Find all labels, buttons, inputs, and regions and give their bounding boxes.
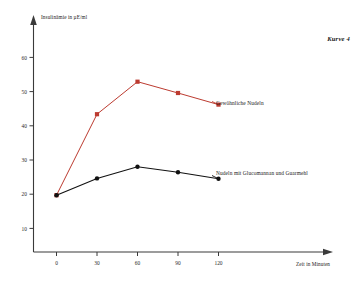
y-tick-label: 30 [11, 157, 27, 163]
chart-figure: Insulinämie in µE/ml Zeit in Minuten Kur… [0, 0, 364, 284]
series-label-nudeln-glucomannan-guarmehl: Nudeln mit Glucomannan und Guarmehl [216, 170, 308, 176]
y-tick-label: 40 [11, 123, 27, 129]
y-axis [30, 15, 37, 252]
y-tick-label: 60 [11, 55, 27, 61]
x-axis [34, 249, 334, 255]
x-tick-label: 0 [47, 260, 67, 266]
y-tick-label: 50 [11, 89, 27, 95]
x-tick-label: 30 [87, 260, 107, 266]
y-tick-label: 20 [11, 191, 27, 197]
chart-title: Kurve 4 [327, 36, 350, 43]
x-tick-label: 60 [128, 260, 148, 266]
series-nudeln-glucomannan-guarmehl [54, 165, 220, 198]
x-tick-label: 120 [209, 260, 229, 266]
y-axis-title: Insulinämie in µE/ml [41, 15, 87, 20]
chart-plot-area [0, 0, 364, 284]
y-tick-marks [30, 57, 34, 228]
x-tick-marks [57, 252, 219, 256]
y-tick-label: 10 [11, 226, 27, 232]
x-axis-title: Zeit in Minuten [296, 262, 330, 267]
x-tick-label: 90 [168, 260, 188, 266]
series-gewohnliche-nudeln [54, 80, 220, 198]
series-label-gewohnliche-nudeln: Gewöhnliche Nudeln [216, 100, 264, 106]
